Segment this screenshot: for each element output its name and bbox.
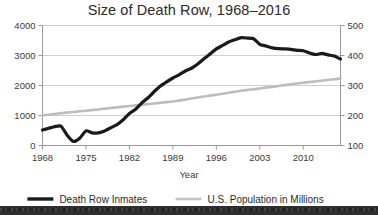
chart-legend: Death Row InmatesU.S. Population in Mill… <box>27 194 323 205</box>
x-tick-label: 1968 <box>32 152 53 163</box>
band-texture <box>0 208 378 211</box>
y2-tick-label: 500 <box>348 20 364 31</box>
data-series-group <box>43 38 341 142</box>
y2-tick-label: 400 <box>348 50 364 61</box>
chart-figure: Size of Death Row, 1968–2016 19681975198… <box>0 0 378 215</box>
y-tick-label: 2000 <box>14 80 35 91</box>
x-tick-label: 2010 <box>293 152 314 163</box>
y2-tick-label: 200 <box>348 110 364 121</box>
x-tick-label: 1975 <box>75 152 96 163</box>
gridlines-group <box>43 26 341 146</box>
y-axis-tick-labels: 01000200030004000 <box>14 20 35 151</box>
y2-tick-label: 300 <box>348 80 364 91</box>
x-tick-label: 1982 <box>119 152 140 163</box>
y2-tick-label: 100 <box>348 140 364 151</box>
x-tick-label: 1989 <box>162 152 183 163</box>
y-tick-label: 4000 <box>14 20 35 31</box>
x-axis-tick-labels: 1968197519821989199620032010 <box>32 152 314 163</box>
secondary-y-axis-tick-labels: 100200300400500 <box>348 20 364 151</box>
legend-label-death-row-inmates: Death Row Inmates <box>59 194 147 205</box>
y-tick-label: 3000 <box>14 50 35 61</box>
x-tick-label: 1996 <box>206 152 227 163</box>
x-axis-title: Year <box>179 169 198 180</box>
x-tick-label: 2003 <box>249 152 270 163</box>
bottom-scan-band <box>0 206 378 215</box>
y-tick-label: 0 <box>30 140 35 151</box>
chart-plot-area: 1968197519821989199620032010 01000200030… <box>0 0 378 215</box>
y-tick-label: 1000 <box>14 110 35 121</box>
legend-label-u-s-population-in-millions: U.S. Population in Millions <box>208 194 324 205</box>
series-line-death-row-inmates <box>43 38 341 142</box>
series-line-u-s-population-in-millions <box>43 79 341 116</box>
